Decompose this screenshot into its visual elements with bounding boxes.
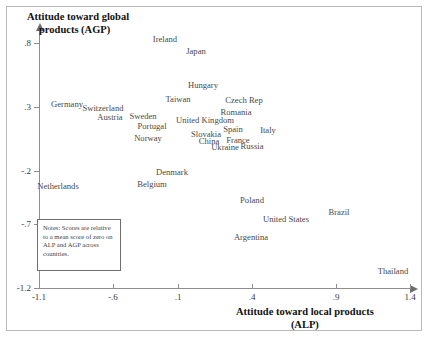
x-axis-line [39, 288, 411, 289]
x-tick-mark [178, 284, 179, 289]
data-point-label: Austria [97, 112, 122, 122]
data-point-label: Taiwan [165, 94, 190, 104]
x-tick-mark [336, 284, 337, 289]
data-point-label: Denmark [156, 167, 188, 177]
data-point-label: United States [263, 214, 309, 224]
x-tick-label: 1.4 [390, 292, 430, 302]
x-tick-mark [252, 284, 253, 289]
x-tick-label: -1.1 [19, 292, 59, 302]
data-point-label: Thailand [378, 266, 409, 276]
data-point-label: Belgium [137, 179, 167, 189]
x-axis-title: Attitude toward local products (ALP) [236, 305, 374, 331]
x-axis-title-line1: Attitude toward local products [236, 306, 374, 317]
data-point-label: Hungary [188, 80, 218, 90]
data-point-label: Czech Rep [225, 95, 262, 105]
notes-box: Notes: Scores are relative to a mean sco… [37, 219, 121, 271]
data-point-label: Germany [51, 99, 83, 109]
data-point-label: Spain [223, 124, 243, 134]
y-axis-title-line2: products (AGP) [27, 23, 129, 36]
scatter-plot-figure: .8 .3 -.2 -.7 -1.2 -1.1 -.6 .1 .4 .9 1.4… [0, 0, 430, 343]
data-point-label: Poland [240, 195, 264, 205]
y-axis-title-line1: Attitude toward global [27, 11, 129, 22]
y-tick-mark [34, 171, 39, 172]
y-tick-mark [34, 43, 39, 44]
y-tick-label: .3 [5, 102, 31, 112]
x-axis-title-line2: (ALP) [236, 318, 374, 331]
data-point-label: Norway [134, 133, 162, 143]
data-point-label: Italy [260, 125, 276, 135]
data-point-label: Portugal [137, 121, 166, 131]
y-tick-label: -.7 [5, 219, 31, 229]
x-tick-label: .9 [316, 292, 356, 302]
y-tick-label: -.2 [5, 166, 31, 176]
x-tick-label: .4 [232, 292, 272, 302]
x-tick-label: -.6 [93, 292, 133, 302]
notes-text: Notes: Scores are relative to a mean sco… [43, 224, 113, 257]
data-point-label: Brazil [329, 207, 350, 217]
data-point-label: Netherlands [37, 181, 79, 191]
x-tick-mark [39, 284, 40, 289]
x-tick-mark [113, 284, 114, 289]
data-point-label: Japan [186, 46, 206, 56]
data-point-label: Argentina [234, 232, 268, 242]
y-axis-title: Attitude toward global products (AGP) [27, 10, 129, 36]
data-point-label: Sweden [129, 111, 156, 121]
plot-area: .8 .3 -.2 -.7 -1.2 -1.1 -.6 .1 .4 .9 1.4… [0, 0, 430, 343]
x-tick-label: .1 [158, 292, 198, 302]
data-point-label: Ukraine [211, 142, 239, 152]
data-point-label: Russia [241, 141, 264, 151]
y-tick-mark [34, 107, 39, 108]
x-tick-mark [410, 284, 411, 289]
y-tick-label: .8 [5, 38, 31, 48]
data-point-label: Ireland [153, 34, 177, 44]
